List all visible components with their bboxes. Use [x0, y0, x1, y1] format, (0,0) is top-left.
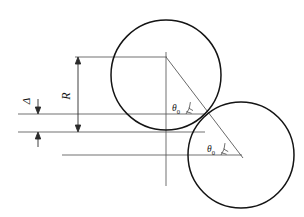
angle-upper-subscript: 0: [177, 108, 180, 115]
geometry-diagram: R Δ θ0 θ0: [0, 0, 304, 217]
radius-label: R: [59, 92, 73, 101]
diagram-background: [0, 0, 304, 217]
offset-label: Δ: [20, 98, 32, 105]
angle-lower-subscript: 0: [212, 149, 215, 156]
